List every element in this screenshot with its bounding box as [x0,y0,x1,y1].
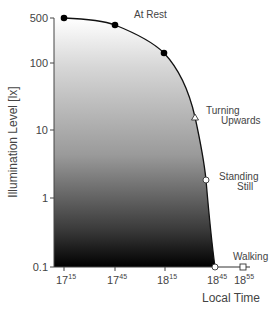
chart-svg: 500 100 10 1 0.1 1715 1745 1815 1845 185… [0,0,274,312]
y-axis-label: Illumination Level [lx] [6,86,20,197]
point-open-circle [203,177,209,183]
svg-text:Walking: Walking [233,251,268,262]
svg-text:1715: 1715 [56,273,76,286]
y-ticks [50,18,54,267]
svg-text:1: 1 [42,192,48,204]
svg-text:0.1: 0.1 [33,261,48,273]
svg-text:100: 100 [30,57,48,69]
point-filled-circle [161,50,168,57]
point-open-circle [212,264,218,270]
illumination-chart: 500 100 10 1 0.1 1715 1745 1815 1845 185… [0,0,274,312]
svg-text:1845: 1845 [207,273,227,286]
svg-text:1855: 1855 [234,273,254,286]
svg-text:1745: 1745 [107,273,127,286]
svg-text:Still: Still [237,181,253,192]
y-tick-labels: 500 100 10 1 0.1 [30,12,48,273]
x-tick-labels: 1715 1745 1815 1845 1855 [56,273,254,286]
svg-text:500: 500 [30,12,48,24]
point-open-square [240,264,246,270]
svg-text:1815: 1815 [157,273,177,286]
svg-text:10: 10 [36,124,48,136]
svg-text:Upwards: Upwards [221,115,260,126]
x-ticks [64,267,165,271]
x-axis-label: Local Time [202,291,260,305]
point-filled-circle [61,15,68,22]
svg-text:At Rest: At Rest [134,9,167,20]
shaded-area [54,18,215,267]
point-filled-circle [112,22,119,29]
